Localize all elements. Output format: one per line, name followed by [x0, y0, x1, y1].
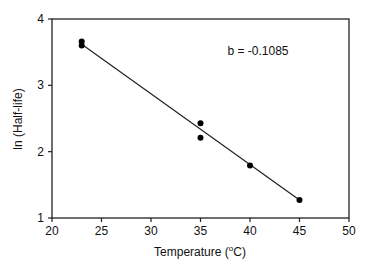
- x-tick-label: 50: [342, 224, 356, 238]
- plot-frame: [52, 19, 349, 218]
- x-tick-label: 35: [194, 224, 208, 238]
- plot-area-border: [52, 19, 349, 218]
- fit-line: [82, 44, 300, 200]
- x-axis-title: Temperature (oC): [154, 244, 246, 259]
- x-axis-ticks: 20253035404550: [45, 218, 356, 238]
- y-tick-label: 4: [37, 12, 44, 26]
- y-axis-ticks: 1234: [37, 12, 52, 225]
- data-point: [198, 120, 204, 126]
- data-point: [297, 197, 303, 203]
- regression-line: [82, 44, 300, 200]
- y-tick-label: 2: [37, 145, 44, 159]
- chart: 20253035404550 1234 b = -0.1085 Temperat…: [0, 0, 371, 269]
- x-tick-label: 25: [95, 224, 109, 238]
- data-point: [198, 135, 204, 141]
- x-tick-label: 45: [293, 224, 307, 238]
- x-tick-label: 30: [144, 224, 158, 238]
- data-point: [247, 163, 253, 169]
- y-axis-title: ln (Half-life): [11, 88, 25, 149]
- x-tick-label: 40: [243, 224, 257, 238]
- x-tick-label: 20: [45, 224, 59, 238]
- y-tick-label: 3: [37, 78, 44, 92]
- data-point: [79, 43, 85, 49]
- y-tick-label: 1: [37, 211, 44, 225]
- slope-annotation: b = -0.1085: [227, 44, 288, 58]
